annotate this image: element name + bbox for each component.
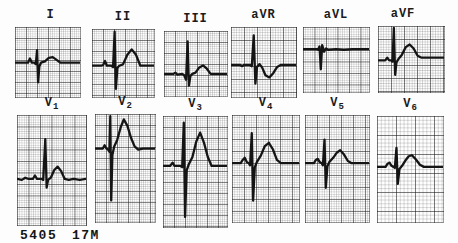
lead-V2-label: V2 <box>95 95 155 113</box>
lead-V5-label: V5 <box>305 96 369 114</box>
lead-V4: V4 <box>232 115 299 222</box>
lead-aVR: aVR <box>231 27 296 97</box>
ecg-figure: I II III aVR aVL aVF V1 V2 V3 V4 V5 <box>0 0 458 243</box>
lead-II-panel <box>92 29 155 98</box>
lead-V6-panel <box>377 116 444 223</box>
lead-V4-label: V4 <box>232 96 299 114</box>
lead-V2-panel <box>95 114 156 223</box>
lead-I: I <box>15 27 80 97</box>
lead-III: III <box>164 31 227 96</box>
lead-aVL-label: aVL <box>303 8 369 26</box>
lead-I-panel <box>15 27 81 98</box>
lead-aVR-label: aVR <box>231 8 296 26</box>
lead-V2: V2 <box>95 114 155 222</box>
lead-aVF-panel <box>378 26 445 93</box>
lead-V1: V1 <box>17 115 86 225</box>
lead-V4-panel <box>232 115 300 223</box>
age-sex-text: 17M <box>72 228 100 243</box>
lead-I-label: I <box>18 8 83 26</box>
lead-aVL: aVL <box>303 27 369 92</box>
lead-aVF: aVF <box>378 26 444 92</box>
lead-III-panel <box>164 31 228 97</box>
lead-V3-panel <box>163 116 228 228</box>
lead-II-label: II <box>92 10 154 28</box>
lead-III-label: III <box>164 12 227 30</box>
lead-aVR-panel <box>231 27 297 98</box>
record-id-text: 5405 <box>20 228 57 243</box>
lead-V6: V6 <box>377 116 443 222</box>
lead-V5-panel <box>305 115 370 223</box>
lead-V1-label: V1 <box>17 96 86 114</box>
lead-aVL-panel <box>303 27 370 93</box>
lead-V3: V3 <box>163 116 227 227</box>
lead-V3-label: V3 <box>163 97 227 115</box>
lead-II: II <box>92 29 154 97</box>
lead-V6-label: V6 <box>377 97 443 115</box>
lead-aVF-label: aVF <box>370 7 436 25</box>
lead-V5: V5 <box>305 115 369 222</box>
lead-V1-panel <box>17 115 87 226</box>
